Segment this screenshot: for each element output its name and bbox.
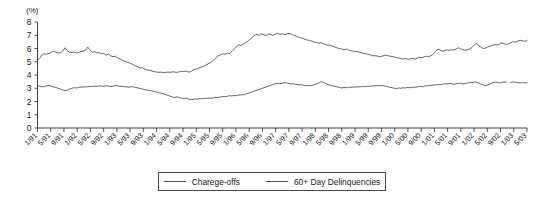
y-tick-label: 1: [27, 110, 32, 120]
y-tick-label: 4: [27, 70, 32, 80]
series-line-delinquencies: [38, 82, 507, 100]
legend-label-charge-offs: Charege-offs: [192, 177, 240, 187]
legend-swatch-delinquencies: [266, 181, 288, 182]
y-tick-label: 8: [27, 17, 32, 27]
x-tick-label: 5/03: [512, 131, 528, 147]
y-tick-label: 3: [27, 83, 32, 93]
x-axis: 1/915/919/911/925/929/921/935/939/931/94…: [23, 128, 529, 147]
series-line-delinquencies: [511, 82, 527, 83]
y-tick-label: 7: [27, 30, 32, 40]
legend-label-delinquencies: 60+ Day Delinquencies: [294, 177, 380, 187]
chart-figure: (%) 012345678 1/915/919/911/925/929/921/…: [0, 0, 541, 209]
y-axis: 012345678: [27, 17, 38, 133]
y-tick-label: 5: [27, 57, 32, 67]
legend-swatch-charge-offs: [164, 181, 186, 182]
series-line-charge-offs: [38, 33, 528, 72]
y-tick-label: 6: [27, 44, 32, 54]
legend-item-charge-offs: Charege-offs: [164, 177, 240, 187]
chart-legend: Charege-offs 60+ Day Delinquencies: [158, 172, 386, 191]
y-tick-label: 2: [27, 97, 32, 107]
series-lines: [38, 33, 528, 100]
y-axis-unit-label: (%): [26, 6, 38, 15]
legend-item-delinquencies: 60+ Day Delinquencies: [266, 177, 380, 187]
